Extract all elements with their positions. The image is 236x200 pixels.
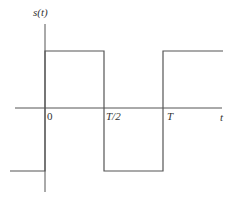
origin-label: 0 [47, 110, 53, 122]
period-label: T [167, 110, 174, 122]
x-axis-label: t [220, 111, 224, 123]
half-period-label: T/2 [106, 110, 121, 122]
y-axis-label: s(t) [33, 6, 48, 19]
square-wave-diagram: s(t) t 0 T/2 T [0, 0, 236, 200]
